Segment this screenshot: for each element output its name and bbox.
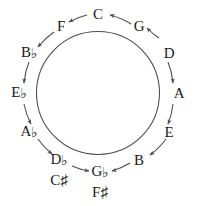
note-label-d-flat[interactable]: D♭ bbox=[50, 152, 67, 168]
note-letter-d-flat: D bbox=[50, 151, 61, 167]
flat-icon: ♭ bbox=[61, 153, 67, 168]
arrow-f-to-bb bbox=[38, 32, 54, 47]
note-label-e-flat[interactable]: E♭ bbox=[11, 85, 26, 101]
note-letter-c-sharp: C bbox=[50, 172, 60, 188]
arrow-d-to-a bbox=[168, 62, 173, 83]
note-label-b-flat[interactable]: B♭ bbox=[21, 45, 37, 61]
circle-of-fifths-diagram: C G D A E B G♭ D♭ A♭ E♭ B♭ F C♯ F♯ bbox=[0, 0, 197, 206]
enharmonic-label-f-sharp[interactable]: F♯ bbox=[92, 185, 108, 200]
sharp-icon: ♯ bbox=[100, 184, 108, 200]
note-label-e[interactable]: E bbox=[165, 125, 174, 140]
note-letter-b-flat: B bbox=[21, 44, 31, 60]
flat-icon: ♭ bbox=[102, 165, 108, 180]
note-letter-c: C bbox=[93, 6, 103, 22]
flat-icon: ♭ bbox=[20, 86, 26, 101]
note-letter-b: B bbox=[134, 152, 144, 168]
arrow-eb-to-ab bbox=[24, 104, 31, 124]
note-label-a-flat[interactable]: A♭ bbox=[20, 124, 37, 140]
main-circle bbox=[37, 32, 160, 155]
note-label-a[interactable]: A bbox=[174, 86, 185, 101]
note-label-f[interactable]: F bbox=[57, 19, 65, 34]
flat-icon: ♭ bbox=[31, 125, 37, 140]
enharmonic-label-c-sharp[interactable]: C♯ bbox=[50, 173, 68, 188]
note-letter-g-flat: G bbox=[91, 163, 102, 179]
note-letter-a-flat: A bbox=[20, 123, 31, 139]
arrow-b-to-gb bbox=[112, 163, 130, 171]
arrow-c-to-f bbox=[69, 15, 87, 22]
arrow-a-to-e bbox=[168, 104, 173, 124]
note-letter-e-flat: E bbox=[11, 84, 20, 100]
note-letter-g: G bbox=[134, 18, 145, 34]
note-label-d[interactable]: D bbox=[164, 46, 175, 61]
note-letter-a: A bbox=[174, 85, 185, 101]
note-label-g-flat[interactable]: G♭ bbox=[91, 164, 108, 180]
note-label-c[interactable]: C bbox=[93, 7, 103, 22]
note-letter-f: F bbox=[57, 18, 65, 34]
arrow-g-to-c bbox=[110, 15, 131, 24]
flat-icon: ♭ bbox=[31, 46, 37, 61]
arrow-db-to-gb bbox=[72, 166, 89, 171]
note-label-g[interactable]: G bbox=[134, 19, 145, 34]
arrow-bb-to-eb bbox=[24, 62, 29, 83]
note-letter-e: E bbox=[165, 124, 174, 140]
note-letter-d: D bbox=[164, 45, 175, 61]
arrow-e-to-b bbox=[150, 139, 166, 155]
note-label-b[interactable]: B bbox=[134, 153, 144, 168]
arrow-d-to-g bbox=[147, 28, 159, 38]
arrow-arc-group bbox=[24, 15, 173, 171]
sharp-icon: ♯ bbox=[60, 172, 68, 188]
